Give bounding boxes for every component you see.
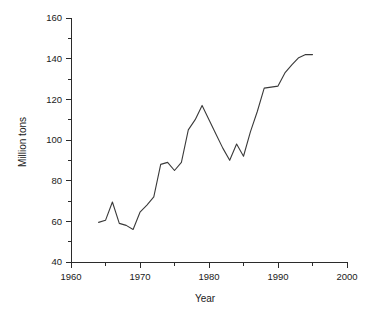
data-series-group [99, 55, 313, 230]
y-tick-label: 60 [51, 216, 62, 227]
x-tick-label: 2000 [336, 271, 357, 282]
x-axis-title: Year [195, 293, 216, 304]
y-tick-label: 140 [46, 53, 62, 64]
chart-container: 406080100120140160 19601970198019902000 … [0, 0, 372, 319]
y-tick-label: 160 [46, 12, 62, 23]
y-tick-label: 120 [46, 94, 62, 105]
series-line-production [99, 55, 313, 230]
y-axis-tick-labels: 406080100120140160 [46, 12, 62, 267]
y-tick-label: 100 [46, 134, 62, 145]
line-chart-plot: 406080100120140160 19601970198019902000 … [0, 0, 372, 319]
y-tick-label: 80 [51, 175, 62, 186]
x-tick-label: 1960 [60, 271, 81, 282]
y-axis-ticks [66, 18, 71, 262]
x-axis-tick-labels: 19601970198019902000 [60, 271, 357, 282]
x-tick-label: 1970 [129, 271, 150, 282]
x-tick-label: 1990 [267, 271, 288, 282]
y-tick-label: 40 [51, 256, 62, 267]
x-tick-label: 1980 [198, 271, 219, 282]
y-axis-title: Million tons [17, 117, 28, 167]
x-axis-ticks [71, 262, 347, 268]
